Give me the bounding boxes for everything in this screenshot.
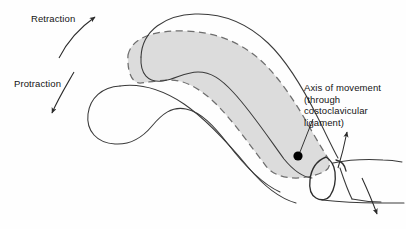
axis-of-movement-marker <box>293 151 302 160</box>
label-axis-line-1: Axis of movement <box>304 82 404 94</box>
label-axis-line-2: (through costoclavicular <box>304 94 404 117</box>
label-axis-of-movement: Axis of movement (through costoclavicula… <box>304 82 404 128</box>
clavicle-movement-diagram: Retraction Protraction Axis of movement … <box>0 0 406 229</box>
label-retraction: Retraction <box>31 13 75 25</box>
label-protraction: Protraction <box>14 78 61 90</box>
label-axis-line-3: ligament) <box>304 117 404 129</box>
depression-arrow <box>362 178 377 214</box>
